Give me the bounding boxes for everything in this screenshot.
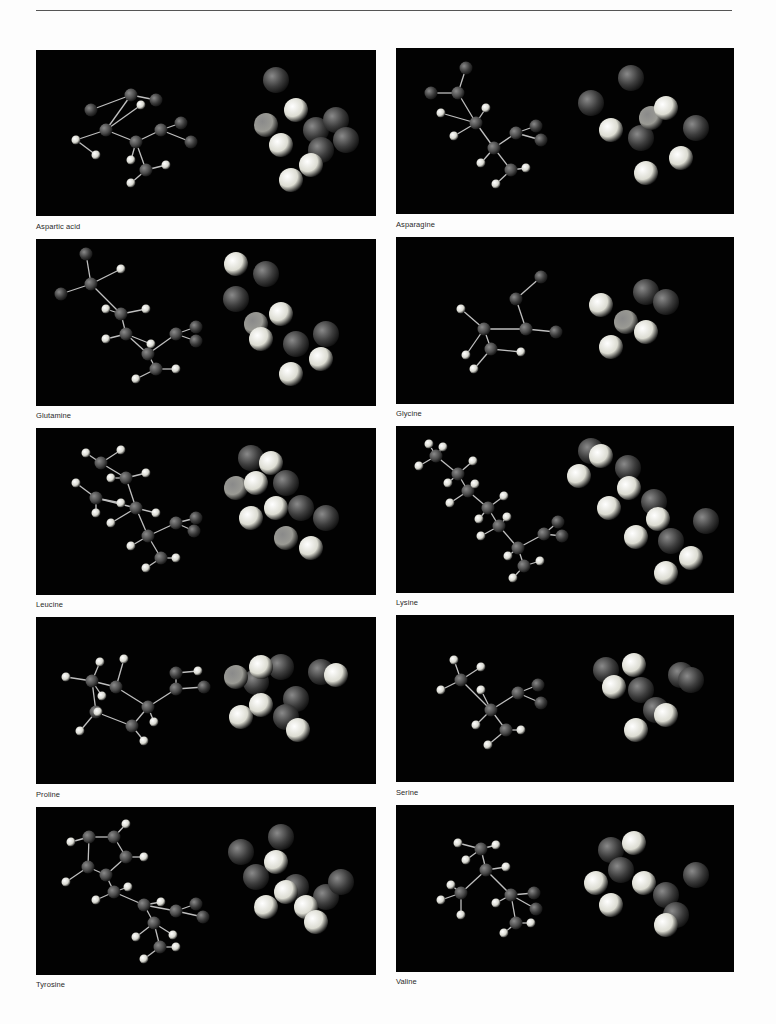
molecule-image: [36, 50, 376, 216]
space-filling-model: [593, 653, 704, 742]
figure-proline: [36, 617, 376, 784]
figure-caption: Glutamine: [36, 411, 71, 420]
space-filling-model: [584, 831, 709, 937]
ball-and-stick-model: [437, 839, 543, 938]
space-filling-model: [578, 65, 709, 185]
molecule-model-svg: [396, 48, 734, 214]
molecule-model-svg: [36, 807, 376, 975]
molecule-image: [36, 428, 376, 595]
ball-and-stick-model: [457, 271, 563, 374]
figure-caption: Tyrosine: [36, 980, 65, 989]
figure-glycine: [396, 237, 734, 404]
space-filling-model: [589, 279, 679, 359]
molecule-model-svg: [36, 617, 376, 784]
molecule-image: [396, 805, 734, 972]
figure-caption: Proline: [36, 790, 60, 799]
figure-caption: Valine: [396, 977, 417, 986]
figure-valine: [396, 805, 734, 972]
space-filling-model: [228, 824, 354, 934]
figure-caption: Aspartic acid: [36, 222, 80, 231]
figure-leucine: [36, 428, 376, 595]
figure-tyrosine: [36, 807, 376, 975]
molecule-model-svg: [396, 615, 734, 782]
ball-and-stick-model: [437, 656, 548, 750]
figure-lysine: [396, 426, 734, 593]
space-filling-model: [254, 67, 359, 192]
figure-aspartic-acid: [36, 50, 376, 216]
molecule-image: [36, 239, 376, 406]
ball-and-stick-model: [62, 820, 210, 964]
figure-caption: Asparagine: [396, 220, 435, 229]
ball-and-stick-model: [72, 89, 198, 188]
figure-caption: Leucine: [36, 600, 63, 609]
ball-and-stick-model: [425, 62, 548, 189]
molecule-image: [396, 48, 734, 214]
molecule-image: [396, 426, 734, 593]
molecule-model-svg: [396, 237, 734, 404]
figure-caption: Lysine: [396, 598, 418, 607]
molecule-image: [36, 617, 376, 784]
molecule-model-svg: [36, 239, 376, 406]
space-filling-model: [567, 438, 719, 585]
molecule-model-svg: [36, 428, 376, 595]
molecule-model-svg: [396, 805, 734, 972]
molecule-image: [36, 807, 376, 975]
molecule-image: [396, 615, 734, 782]
ball-and-stick-model: [72, 446, 203, 573]
ball-and-stick-model: [55, 248, 203, 384]
space-filling-model: [224, 445, 339, 560]
molecule-model-svg: [36, 50, 376, 216]
space-filling-model: [223, 252, 339, 386]
ball-and-stick-model: [62, 655, 211, 746]
molecule-model-svg: [396, 426, 734, 593]
header-rule: [36, 10, 732, 11]
space-filling-model: [224, 654, 348, 742]
figure-caption: Serine: [396, 788, 418, 797]
figure-serine: [396, 615, 734, 782]
figure-asparagine: [396, 48, 734, 214]
figure-caption: Glycine: [396, 409, 422, 418]
ball-and-stick-model: [415, 440, 569, 583]
figure-glutamine: [36, 239, 376, 406]
molecule-image: [396, 237, 734, 404]
